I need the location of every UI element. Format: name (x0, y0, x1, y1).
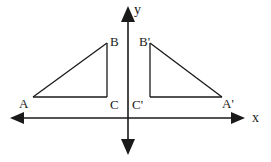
vertex-label-b: B (110, 35, 119, 48)
geometry-figure: A B C B' C' A' y x (0, 0, 271, 162)
triangle-abc (33, 43, 107, 97)
y-axis-positive-arrow-icon (121, 6, 135, 22)
triangle-abc-prime (150, 43, 222, 97)
y-axis-label: y (134, 3, 141, 17)
x-axis-positive-arrow-icon (231, 112, 245, 124)
triangle-abc-side-ab (33, 43, 107, 97)
x-axis-label: x (252, 111, 259, 125)
triangle-abc-prime-side-ab (150, 43, 222, 97)
vertex-label-b-prime: B' (139, 35, 150, 48)
vertex-label-c: C (110, 98, 119, 111)
vertex-label-a: A (19, 97, 28, 110)
vertex-label-c-prime: C' (132, 98, 143, 111)
vertex-label-a-prime: A' (222, 97, 234, 110)
x-axis-negative-arrow-icon (10, 112, 24, 124)
y-axis-negative-arrow-icon (121, 139, 135, 155)
axes-group (10, 6, 245, 155)
geometry-canvas (0, 0, 271, 162)
